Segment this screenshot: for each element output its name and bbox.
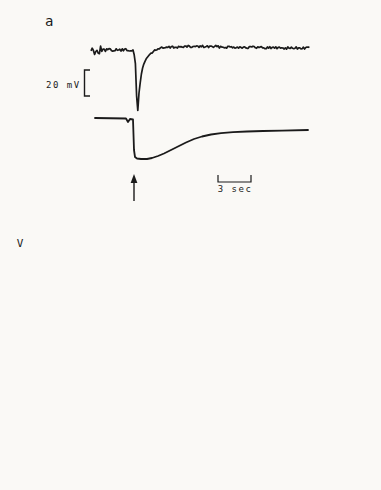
- y-axis-title: V: [17, 237, 24, 250]
- voltage-scale-label: 20 mV: [46, 80, 81, 90]
- figure-page: a 20 mV 3 sec V: [0, 0, 381, 490]
- time-scale-label: 3 sec: [218, 184, 253, 194]
- panel-a-label: a: [45, 13, 53, 29]
- panel-a-traces: a 20 mV 3 sec: [45, 13, 309, 201]
- trace-group: [91, 45, 309, 159]
- scientific-figure: a 20 mV 3 sec V: [0, 0, 381, 490]
- trace-top: [91, 45, 309, 110]
- stimulus-arrow-icon: [131, 174, 138, 183]
- trace-middle: [95, 118, 308, 159]
- voltage-scale-bracket: [85, 70, 91, 96]
- time-scale-bracket: [218, 175, 251, 182]
